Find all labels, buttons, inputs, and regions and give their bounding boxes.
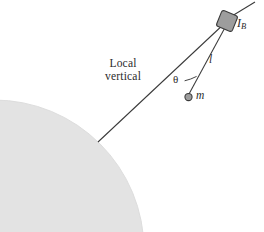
local-vertical-label: Local vertical [92, 57, 154, 83]
body-axis-extension [232, 2, 255, 16]
rigid-body-inertia-label: IB [237, 17, 246, 32]
angle-theta-arc [185, 76, 197, 80]
local-vertical-label-line1: Local [109, 57, 136, 69]
diagram-canvas [0, 0, 264, 232]
tether-length-label: l [209, 53, 212, 66]
point-mass-label: m [196, 89, 204, 102]
point-mass [185, 93, 192, 100]
angle-theta-label: θ [173, 73, 178, 85]
rigid-body-inertia-subscript: B [241, 21, 246, 31]
local-vertical-label-line2: vertical [105, 70, 141, 82]
physics-diagram-figure: Local vertical IB l θ m [0, 0, 264, 232]
